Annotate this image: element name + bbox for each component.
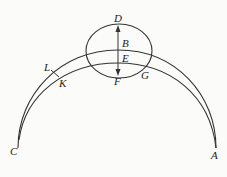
- diagram-graphic: [0, 0, 227, 177]
- label-L: L: [44, 62, 50, 73]
- label-C: C: [10, 146, 17, 157]
- label-G: G: [141, 70, 149, 81]
- label-E: E: [122, 53, 129, 64]
- label-F: F: [114, 76, 121, 87]
- label-A: A: [211, 150, 218, 161]
- arrowhead-up-icon: [116, 25, 121, 32]
- label-D: D: [114, 13, 122, 24]
- label-B: B: [122, 38, 129, 49]
- diagram: D B E F G L K C A: [0, 0, 227, 177]
- label-K: K: [59, 78, 66, 89]
